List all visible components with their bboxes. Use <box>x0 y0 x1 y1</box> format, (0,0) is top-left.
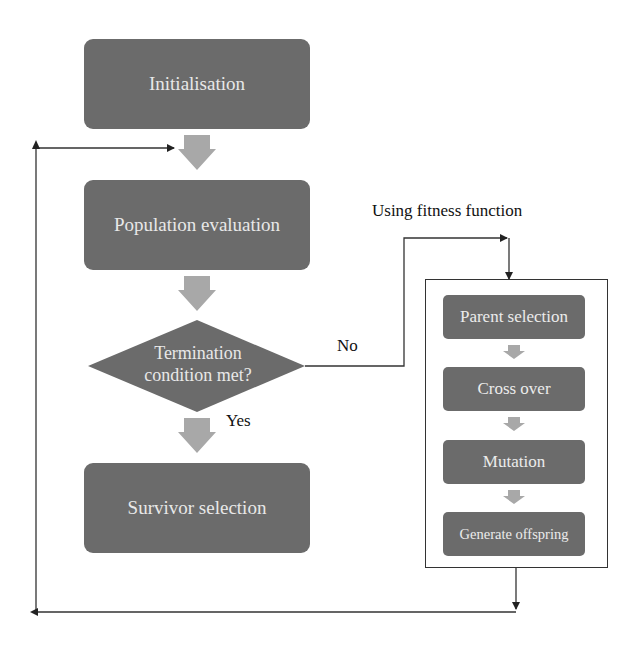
node-cross-over-label: Cross over <box>477 379 550 399</box>
node-cross-over: Cross over <box>443 367 585 411</box>
node-survivor-selection: Survivor selection <box>84 463 310 553</box>
node-population-evaluation-label: Population evaluation <box>114 214 280 236</box>
decision-label-line1: Termination <box>118 342 278 364</box>
block-arrow-init-to-eval <box>178 135 216 170</box>
block-arrow-eval-to-decision <box>178 276 216 311</box>
node-initialisation-label: Initialisation <box>149 73 245 95</box>
node-mutation-label: Mutation <box>483 452 545 472</box>
node-initialisation: Initialisation <box>84 39 310 129</box>
node-generate-offspring-label: Generate offspring <box>460 526 569 543</box>
node-parent-selection-label: Parent selection <box>460 307 568 327</box>
node-parent-selection: Parent selection <box>443 295 585 339</box>
edge-label-yes: Yes <box>226 411 251 431</box>
loop-left-arrowhead <box>30 608 38 616</box>
flowchart-canvas: Initialisation Population evaluation Ter… <box>0 0 640 648</box>
fitness-function-note: Using fitness function <box>372 201 522 221</box>
edge-label-no: No <box>337 336 358 356</box>
node-survivor-selection-label: Survivor selection <box>128 497 267 519</box>
node-generate-offspring: Generate offspring <box>443 512 585 556</box>
decision-label: Termination condition met? <box>118 342 278 386</box>
decision-label-line2: condition met? <box>118 364 278 386</box>
block-arrow-decision-to-survivor <box>178 418 216 453</box>
loop-up-arrowhead <box>32 140 40 149</box>
node-population-evaluation: Population evaluation <box>84 180 310 270</box>
node-mutation: Mutation <box>443 440 585 484</box>
